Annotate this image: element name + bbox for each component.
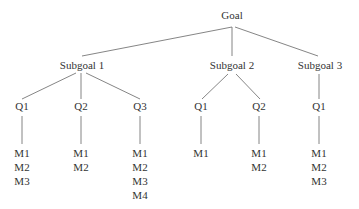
metric-item: M2 (132, 160, 147, 174)
metric-item: M2 (73, 160, 88, 174)
subgoal-3-node: Subgoal 3 (298, 59, 342, 72)
metric-item: M3 (311, 174, 326, 188)
subgoal-2-node: Subgoal 2 (210, 59, 254, 72)
metrics-list: M1 (193, 146, 208, 160)
metric-item: M1 (251, 146, 266, 160)
metric-item: M3 (14, 174, 29, 188)
question-node: Q1 (15, 100, 28, 113)
metric-item: M2 (251, 160, 266, 174)
metrics-list: M1 M2 M3 (311, 146, 326, 188)
question-node: Q1 (194, 100, 207, 113)
question-node: Q1 (312, 100, 325, 113)
metrics-list: M1 M2 (251, 146, 266, 174)
metric-item: M1 (14, 146, 29, 160)
metric-item: M2 (14, 160, 29, 174)
goal-node: Goal (221, 9, 242, 22)
metrics-list: M1 M2 M3 M4 (132, 146, 147, 202)
tree-connectors (0, 0, 359, 209)
metric-item: M1 (132, 146, 147, 160)
metric-item: M1 (193, 146, 208, 160)
question-node: Q2 (252, 100, 265, 113)
metrics-list: M1 M2 (73, 146, 88, 174)
metrics-list: M1 M2 M3 (14, 146, 29, 188)
metric-item: M1 (311, 146, 326, 160)
question-node: Q2 (74, 100, 87, 113)
metric-item: M2 (311, 160, 326, 174)
subgoal-1-node: Subgoal 1 (60, 59, 104, 72)
metric-item: M3 (132, 174, 147, 188)
metric-item: M4 (132, 188, 147, 202)
metric-item: M1 (73, 146, 88, 160)
question-node: Q3 (133, 100, 146, 113)
